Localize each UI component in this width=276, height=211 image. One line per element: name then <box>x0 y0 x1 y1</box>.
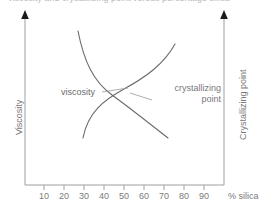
x-tick-label-10: 10 <box>36 191 52 201</box>
x-tick-label-90: 90 <box>196 191 212 201</box>
x-tick-label-60: 60 <box>136 191 152 201</box>
left-axis-arrow-icon <box>21 10 29 19</box>
x-tick-label-50: 50 <box>116 191 132 201</box>
x-tick-label-30: 30 <box>76 191 92 201</box>
leader-line-crystallizing-point <box>130 93 152 100</box>
x-tick-label-20: 20 <box>56 191 72 201</box>
x-tick-label-80: 80 <box>176 191 192 201</box>
curve-label-viscosity: viscosity <box>61 87 95 97</box>
left-axis-label: Viscosity <box>14 100 24 135</box>
x-tick-label-40: 40 <box>96 191 112 201</box>
curve-label-crystallizing-line1: crystallizing <box>155 83 221 94</box>
x-axis-label: % silica <box>228 191 259 201</box>
x-tick-label-70: 70 <box>156 191 172 201</box>
right-axis-arrow-icon <box>220 10 228 19</box>
x-axis-ticks <box>44 185 204 190</box>
right-axis-label: Crystallizing point <box>238 69 248 140</box>
curve-label-crystallizing-point: crystallizing point <box>155 83 221 104</box>
plot-canvas <box>0 0 276 211</box>
curve-label-crystallizing-line2: point <box>155 94 221 105</box>
viscosity-crystallizing-point-chart: viscosity and crystallizing point versus… <box>0 0 276 211</box>
